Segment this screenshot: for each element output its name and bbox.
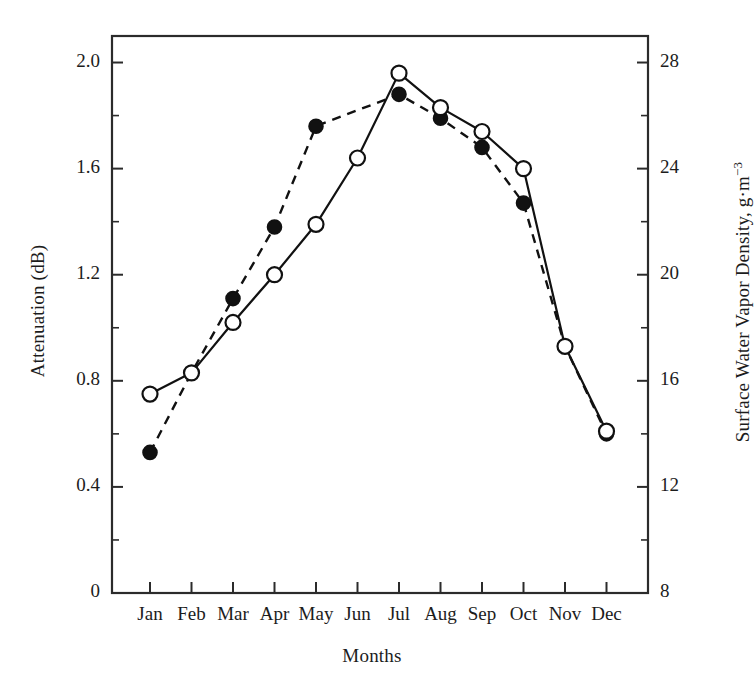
y-axis-right-tick-label: 16 bbox=[660, 368, 720, 390]
y-axis-right-tick-label: 28 bbox=[660, 50, 720, 72]
y-axis-left-tick-label: 2.0 bbox=[40, 50, 100, 72]
series-water-vapor-line bbox=[150, 94, 607, 452]
x-axis-ticks bbox=[150, 582, 607, 593]
y-axis-right-tick-label: 20 bbox=[660, 262, 720, 284]
y-axis-left-tick-label: 1.6 bbox=[40, 156, 100, 178]
plot-frame bbox=[112, 36, 648, 593]
y-axis-title-right-superscript: −3 bbox=[730, 162, 745, 176]
x-axis-tick-label: Dec bbox=[579, 603, 635, 625]
y-axis-title-right: Surface Water Vapor Density, g·m−3 bbox=[730, 182, 754, 442]
x-axis-title: Months bbox=[0, 645, 744, 667]
y-axis-title-right-text: Surface Water Vapor Density, g·m bbox=[732, 176, 753, 442]
y-axis-left-tick-label: 0.4 bbox=[40, 474, 100, 496]
y-axis-right-tick-label: 24 bbox=[660, 156, 720, 178]
y-axis-left-tick-label: 1.2 bbox=[40, 262, 100, 284]
y-axis-right-tick-label: 8 bbox=[660, 580, 720, 602]
y-axis-right-tick-label: 12 bbox=[660, 474, 720, 496]
y-axis-left-tick-label: 0.8 bbox=[40, 368, 100, 390]
y-axis-left-tick-label: 0 bbox=[40, 580, 100, 602]
